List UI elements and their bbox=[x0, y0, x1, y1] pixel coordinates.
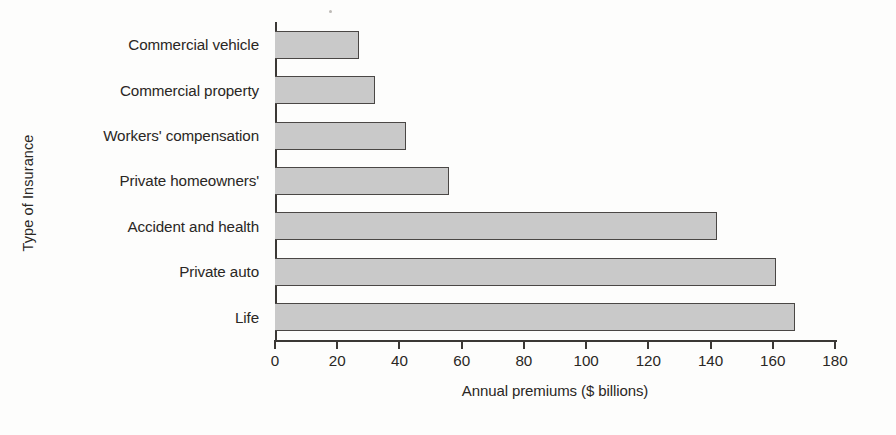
x-tick-label-120: 120 bbox=[636, 352, 661, 369]
x-tick-mark-180 bbox=[834, 340, 836, 349]
bar-commercial-property[interactable] bbox=[275, 76, 375, 104]
x-tick-mark-80 bbox=[523, 340, 525, 349]
x-tick-label-60: 60 bbox=[453, 352, 470, 369]
plot-area bbox=[275, 22, 835, 340]
scan-speck bbox=[329, 10, 332, 13]
bar-private-auto[interactable] bbox=[275, 258, 776, 286]
bar-slot bbox=[275, 204, 835, 249]
x-tick-label-180: 180 bbox=[822, 352, 847, 369]
y-axis-category-labels: Commercial vehicle Commercial property W… bbox=[40, 22, 268, 340]
x-tick-label-0: 0 bbox=[271, 352, 279, 369]
x-axis-title: Annual premiums ($ billions) bbox=[275, 382, 835, 399]
x-tick-mark-140 bbox=[710, 340, 712, 349]
bar-slot bbox=[275, 158, 835, 203]
bar-accident-and-health[interactable] bbox=[275, 212, 717, 240]
x-tick-mark-160 bbox=[772, 340, 774, 349]
x-tick-label-140: 140 bbox=[698, 352, 723, 369]
x-axis-ticks: 020406080100120140160180 bbox=[275, 340, 835, 374]
x-tick-label-160: 160 bbox=[760, 352, 785, 369]
bar-series bbox=[275, 22, 835, 340]
y-tick-label-commercial-vehicle: Commercial vehicle bbox=[40, 22, 268, 67]
bar-slot bbox=[275, 113, 835, 158]
y-tick-label-commercial-property: Commercial property bbox=[40, 67, 268, 112]
bar-workers-compensation[interactable] bbox=[275, 122, 406, 150]
x-tick-label-80: 80 bbox=[515, 352, 532, 369]
bar-slot bbox=[275, 22, 835, 67]
x-tick-mark-0 bbox=[274, 340, 276, 349]
x-tick-label-20: 20 bbox=[329, 352, 346, 369]
x-tick-mark-100 bbox=[585, 340, 587, 349]
bar-chart-figure: Type of Insurance Commercial vehicle Com… bbox=[0, 0, 896, 435]
bar-private-homeowners[interactable] bbox=[275, 167, 449, 195]
bar-slot bbox=[275, 295, 835, 340]
x-tick-label-40: 40 bbox=[391, 352, 408, 369]
bar-commercial-vehicle[interactable] bbox=[275, 31, 359, 59]
bar-life[interactable] bbox=[275, 303, 795, 331]
x-tick-mark-60 bbox=[461, 340, 463, 349]
x-tick-label-100: 100 bbox=[573, 352, 598, 369]
y-tick-label-accident-and-health: Accident and health bbox=[40, 204, 268, 249]
x-tick-mark-40 bbox=[398, 340, 400, 349]
y-tick-label-private-homeowners: Private homeowners' bbox=[40, 158, 268, 203]
x-tick-mark-120 bbox=[647, 340, 649, 349]
x-tick-mark-20 bbox=[336, 340, 338, 349]
y-axis-title: Type of Insurance bbox=[20, 93, 36, 293]
bar-slot bbox=[275, 249, 835, 294]
y-tick-label-workers-compensation: Workers' compensation bbox=[40, 113, 268, 158]
bar-slot bbox=[275, 67, 835, 112]
y-tick-label-private-auto: Private auto bbox=[40, 249, 268, 294]
y-tick-label-life: Life bbox=[40, 295, 268, 340]
